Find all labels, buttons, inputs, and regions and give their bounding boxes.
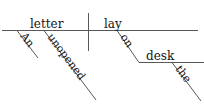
word-modifier-unopened: unopened [45,31,88,83]
word-preposition-on: on [118,31,137,50]
sentence-diagram: letter lay An unopened on desk the [0,0,204,104]
word-object-desk: desk [146,49,175,63]
word-modifier-the: the [173,63,194,85]
word-subject-letter: letter [30,17,64,31]
word-verb-lay: lay [104,17,122,31]
diagram-canvas: letter lay An unopened on desk the [0,0,204,104]
word-modifier-an: An [17,29,37,50]
